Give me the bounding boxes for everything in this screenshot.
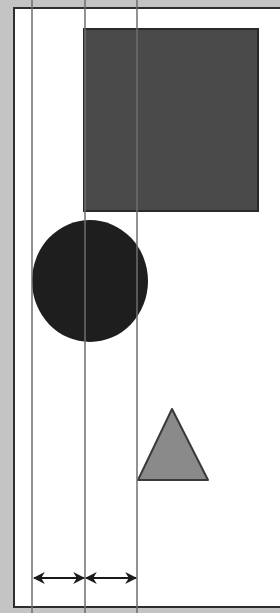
circle-shape[interactable]	[32, 220, 148, 342]
diagram-stage	[0, 0, 280, 613]
triangle-shape[interactable]	[138, 409, 208, 480]
square-shape[interactable]	[84, 29, 258, 211]
diagram-svg	[0, 0, 280, 613]
